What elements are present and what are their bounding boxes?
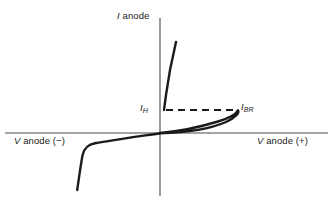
y-axis-label: I anode bbox=[117, 11, 149, 21]
thyristor-iv-characteristic-figure: I anode V anode (−) V anode (+) IH IBR bbox=[0, 0, 334, 214]
x-axis-label-negative: V anode (−) bbox=[14, 136, 65, 146]
on-state-branch bbox=[164, 42, 176, 110]
x-axis-label-positive-symbol: V bbox=[257, 135, 263, 146]
holding-current-label: IH bbox=[140, 103, 148, 114]
y-axis-label-text: anode bbox=[123, 10, 150, 21]
breakover-current-label: IBR bbox=[241, 102, 254, 113]
x-axis-label-positive: V anode (+) bbox=[257, 136, 308, 146]
iv-curve-plot bbox=[0, 0, 334, 214]
forward-blocking-branch bbox=[160, 110, 238, 133]
x-axis-label-negative-symbol: V bbox=[14, 135, 20, 146]
x-axis-label-negative-text: anode (−) bbox=[23, 135, 65, 146]
breakover-current-subscript: BR bbox=[244, 106, 254, 113]
y-axis-label-symbol: I bbox=[117, 10, 120, 21]
reverse-breakdown-branch bbox=[77, 133, 160, 190]
x-axis-label-positive-text: anode (+) bbox=[266, 135, 308, 146]
holding-current-subscript: H bbox=[143, 107, 148, 114]
